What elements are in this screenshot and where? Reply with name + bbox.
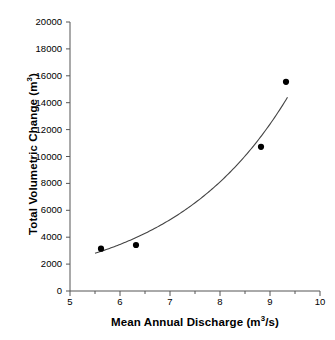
data-point — [283, 79, 289, 85]
data-point — [258, 144, 264, 150]
chart-figure: Total Volumetric Change (m3) Mean Annual… — [0, 0, 335, 340]
axis-lines — [70, 22, 320, 291]
data-point-markers — [98, 79, 289, 252]
axis-tick-marks — [66, 22, 320, 296]
trendline-curve — [95, 97, 288, 253]
data-point — [98, 246, 104, 252]
data-point — [133, 242, 139, 248]
plot-canvas — [0, 0, 335, 340]
